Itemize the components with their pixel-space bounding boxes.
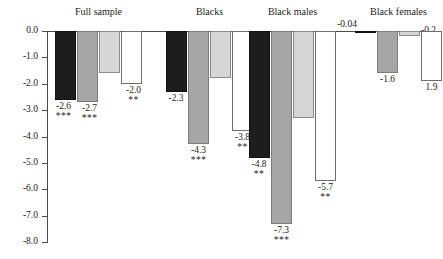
y-axis-tick-mark [42, 137, 48, 138]
bar-value-text: -4.3 [187, 145, 211, 156]
bar-group: Blacks-2.3-4.3***-1.8-3.8** [166, 0, 253, 259]
bar-value-label: -2.3 [164, 93, 188, 104]
bar [271, 31, 292, 224]
bar [355, 31, 376, 33]
y-axis-tick-mark [42, 216, 48, 217]
bar [421, 31, 442, 81]
bar-group-title: Blacks [166, 5, 253, 18]
bar [249, 31, 270, 158]
bar [293, 31, 314, 118]
y-axis-tick: -2.0 [42, 84, 48, 85]
bar-value-label: -2.7*** [78, 103, 102, 122]
bar-value-label: -4.3*** [187, 145, 211, 164]
y-axis-tick-mark [42, 110, 48, 111]
bar-group-title: Black females [355, 5, 442, 18]
bar [399, 31, 420, 36]
significance-stars: ** [247, 170, 271, 178]
bar [377, 31, 398, 73]
bar-value-label: -4.8** [247, 159, 271, 178]
y-axis-tick: -4.0 [42, 137, 48, 138]
y-axis-tick-mark [42, 84, 48, 85]
y-axis-tick: -5.0 [42, 163, 48, 164]
bar-value-text: -2.0 [122, 85, 146, 96]
y-axis-tick-mark [42, 189, 48, 190]
bar-value-text: -7.3 [270, 225, 294, 236]
bar [55, 31, 76, 100]
bar [121, 31, 142, 84]
bar-value-label: -1.6 [376, 74, 400, 85]
y-axis-tick-mark [42, 57, 48, 58]
bar [99, 31, 120, 73]
y-axis-tick: -7.0 [42, 216, 48, 217]
bar [315, 31, 336, 181]
bar-group-title: Full sample [55, 5, 142, 18]
bar-value-text: 1.9 [420, 82, 443, 93]
bar-value-text: -2.6 [52, 101, 76, 112]
bar-value-text: -5.7 [314, 182, 338, 193]
bar-value-label: -7.3*** [270, 225, 294, 244]
bar-value-label: 1.9 [420, 82, 443, 93]
y-axis-tick: -6.0 [42, 189, 48, 190]
bar-chart: 0.0-1.0-2.0-3.0-4.0-5.0-6.0-7.0-8.0 Full… [0, 0, 443, 259]
significance-stars: *** [52, 112, 76, 120]
bar-value-label: -2.0** [122, 85, 146, 104]
bar-group: Black females-0.04-1.6-0.21.9 [355, 0, 442, 259]
y-axis-tick-label: -1.0 [23, 50, 38, 63]
bar [166, 31, 187, 92]
y-axis-tick-label: -2.0 [23, 77, 38, 90]
y-axis-tick-mark [42, 31, 48, 32]
bar-group: Black males-4.8**-7.3***-3.3-5.7** [249, 0, 336, 259]
y-axis-tick-mark [42, 163, 48, 164]
significance-stars: ** [122, 96, 146, 104]
significance-stars: *** [270, 236, 294, 244]
y-axis-tick: -3.0 [42, 110, 48, 111]
y-axis-tick-mark [42, 242, 48, 243]
y-axis-tick-label: -6.0 [23, 182, 38, 195]
bar-value-label: -2.6*** [52, 101, 76, 120]
y-axis-tick: -1.0 [42, 57, 48, 58]
bar-group: Full sample-2.6***-2.7***-1.6-2.0** [55, 0, 142, 259]
bar-value-text: -2.7 [78, 103, 102, 114]
bar [188, 31, 209, 144]
y-axis-tick-label: 0.0 [26, 24, 38, 37]
significance-stars: *** [187, 156, 211, 164]
bar-value-text: -2.3 [164, 93, 188, 104]
bar-value-text: -1.6 [376, 74, 400, 85]
y-axis-tick-label: -4.0 [23, 130, 38, 143]
bar-group-title: Black males [249, 5, 336, 18]
significance-stars: ** [314, 193, 338, 201]
significance-stars: *** [78, 114, 102, 122]
bar [77, 31, 98, 102]
y-axis-tick: -8.0 [42, 242, 48, 243]
y-axis-tick: 0.0 [42, 31, 48, 32]
bar [210, 31, 231, 78]
bar-value-label: -5.7** [314, 182, 338, 201]
y-axis-tick-label: -5.0 [23, 156, 38, 169]
y-axis-tick-label: -3.0 [23, 103, 38, 116]
bar-value-text: -4.8 [247, 159, 271, 170]
y-axis-tick-label: -8.0 [23, 235, 38, 248]
y-axis-tick-label: -7.0 [23, 209, 38, 222]
